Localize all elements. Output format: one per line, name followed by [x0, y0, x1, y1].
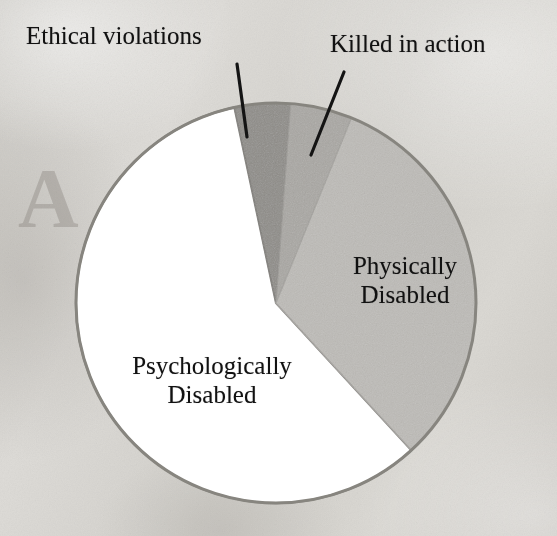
slice-label-psychologically-disabled-line2: Disabled [168, 381, 257, 408]
slice-label-physically-disabled-line1: Physically [353, 252, 457, 279]
slice-label-physically-disabled: Physically Disabled [330, 252, 480, 309]
slice-label-ethical-violations: Ethical violations [26, 22, 202, 51]
slice-label-killed-in-action: Killed in action [330, 30, 486, 59]
slice-label-physically-disabled-line2: Disabled [361, 281, 450, 308]
chart-area: Ethical violations Killed in action Phys… [0, 0, 557, 536]
pie-chart-figure: A [0, 0, 557, 536]
slice-label-psychologically-disabled-line1: Psychologically [132, 352, 292, 379]
slice-label-psychologically-disabled: Psychologically Disabled [103, 352, 321, 409]
